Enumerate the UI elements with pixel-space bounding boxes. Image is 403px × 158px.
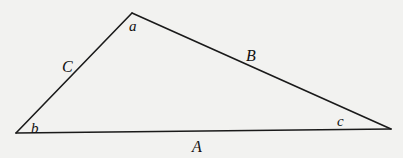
angle-label-a: a	[129, 18, 137, 34]
side-label-C: C	[62, 58, 73, 75]
side-A-line	[16, 129, 391, 133]
angle-label-c: c	[337, 113, 344, 129]
side-B-line	[132, 13, 391, 129]
triangle-diagram: a b c A B C	[0, 0, 403, 158]
side-label-B: B	[246, 47, 256, 64]
angle-label-b: b	[31, 120, 39, 136]
side-label-A: A	[191, 138, 202, 155]
side-C-line	[16, 13, 132, 133]
